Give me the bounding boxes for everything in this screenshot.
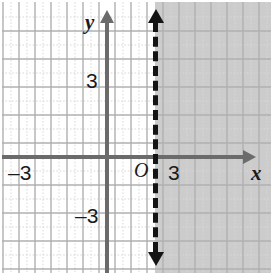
- x-axis: [2, 155, 245, 159]
- boundary-arrowhead-up-icon: [148, 9, 164, 23]
- x-axis-label: x: [251, 163, 262, 184]
- x-axis-tick-label-negative-three: –3: [8, 162, 31, 183]
- major-gridlines: [0, 0, 279, 275]
- boundary-arrowhead-down-icon: [148, 252, 164, 266]
- x-axis-tick-label-positive-three: 3: [168, 162, 180, 183]
- coordinate-plane-graph: –3 3 3 –3 O x y: [0, 0, 279, 275]
- y-axis-arrowhead-icon: [100, 10, 114, 23]
- y-axis-tick-label-positive-three: 3: [86, 70, 98, 91]
- y-axis-tick-label-negative-three: –3: [75, 205, 98, 226]
- origin-label: O: [134, 160, 148, 180]
- boundary-dashed-line: [153, 22, 158, 252]
- y-axis-label: y: [85, 12, 94, 33]
- y-axis: [105, 22, 109, 273]
